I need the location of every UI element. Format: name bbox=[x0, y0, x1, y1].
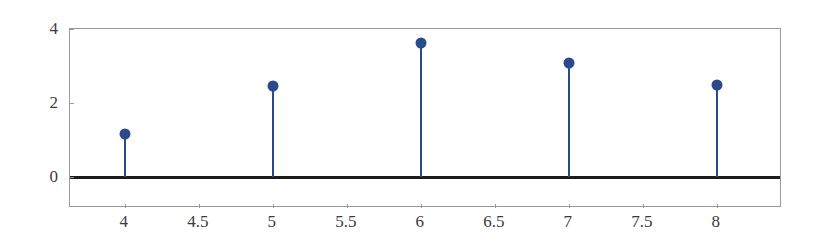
y-tick-mark bbox=[70, 29, 74, 30]
plot-frame bbox=[69, 28, 781, 207]
x-tick-mark bbox=[421, 204, 422, 208]
stem-marker bbox=[415, 38, 426, 49]
x-tick-label: 4 bbox=[120, 213, 129, 230]
x-tick-mark bbox=[495, 204, 496, 208]
stem-marker bbox=[119, 129, 130, 140]
stem-line bbox=[716, 85, 718, 177]
x-tick-label: 8 bbox=[712, 213, 721, 230]
x-tick-label: 5.5 bbox=[335, 213, 356, 230]
y-tick-label: 2 bbox=[50, 93, 59, 110]
stem-plot-screenshot: 44.555.566.577.58 024 bbox=[0, 0, 817, 252]
x-tick-mark bbox=[569, 204, 570, 208]
x-tick-mark bbox=[273, 204, 274, 208]
stem-line bbox=[568, 63, 570, 177]
x-tick-label: 4.5 bbox=[187, 213, 208, 230]
stem-line bbox=[124, 134, 126, 177]
stem-line bbox=[272, 86, 274, 177]
y-tick-label: 4 bbox=[50, 20, 59, 37]
x-tick-label: 7.5 bbox=[631, 213, 652, 230]
stem-marker bbox=[711, 79, 722, 90]
x-tick-mark bbox=[717, 204, 718, 208]
x-tick-mark bbox=[347, 204, 348, 208]
x-tick-mark bbox=[199, 204, 200, 208]
stem-marker bbox=[267, 80, 278, 91]
y-tick-label: 0 bbox=[50, 167, 59, 184]
x-tick-label: 5 bbox=[268, 213, 277, 230]
y-tick-mark bbox=[70, 103, 74, 104]
x-tick-mark bbox=[643, 204, 644, 208]
x-tick-label: 6 bbox=[416, 213, 425, 230]
zero-baseline bbox=[70, 176, 780, 179]
x-tick-label: 7 bbox=[564, 213, 573, 230]
stem-line bbox=[420, 43, 422, 177]
x-tick-label: 6.5 bbox=[483, 213, 504, 230]
y-tick-mark bbox=[70, 177, 74, 178]
x-tick-mark bbox=[125, 204, 126, 208]
stem-marker bbox=[563, 58, 574, 69]
